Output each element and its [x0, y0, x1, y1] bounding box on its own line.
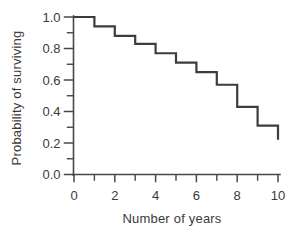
survival-curve [74, 17, 278, 140]
x-tick-label: 6 [193, 188, 200, 203]
x-axis-title: Number of years [122, 211, 221, 226]
survival-curve-figure: 1.00.80.60.40.20.00246810 Probability of… [0, 0, 304, 235]
y-tick-label: 1.0 [42, 10, 60, 25]
y-axis-title: Probability of surviving [9, 31, 24, 166]
x-tick-label: 0 [70, 188, 77, 203]
x-tick-label: 10 [271, 188, 285, 203]
y-tick-label: 0.4 [42, 104, 60, 119]
x-tick-label: 2 [111, 188, 118, 203]
x-tick-label: 4 [152, 188, 159, 203]
y-tick-label: 0.0 [42, 167, 60, 182]
chart-canvas: 1.00.80.60.40.20.00246810 [0, 0, 304, 235]
x-tick-label: 8 [234, 188, 241, 203]
y-tick-label: 0.8 [42, 41, 60, 56]
y-tick-label: 0.2 [42, 136, 60, 151]
y-tick-label: 0.6 [42, 73, 60, 88]
